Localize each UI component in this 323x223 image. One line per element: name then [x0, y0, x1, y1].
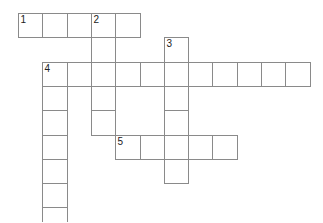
crossword-cell[interactable]	[115, 13, 141, 38]
crossword-cell[interactable]: 4	[42, 62, 68, 87]
crossword-cell[interactable]	[42, 110, 68, 136]
crossword-cell[interactable]: 5	[115, 135, 141, 160]
crossword-cell[interactable]	[91, 62, 116, 87]
crossword-cell[interactable]	[164, 62, 189, 87]
crossword-cell[interactable]	[212, 135, 238, 160]
crossword-cell[interactable]: 2	[91, 13, 116, 38]
clue-number: 4	[45, 64, 51, 74]
crossword-cell[interactable]	[91, 86, 116, 111]
crossword-cell[interactable]	[188, 62, 213, 87]
crossword-cell[interactable]	[164, 135, 189, 160]
crossword-cell[interactable]	[91, 110, 116, 136]
crossword-cell[interactable]	[42, 135, 68, 160]
crossword-cell[interactable]	[42, 207, 68, 223]
clue-number: 5	[118, 137, 124, 147]
crossword-cell[interactable]	[285, 62, 311, 87]
crossword-cell[interactable]: 1	[18, 13, 43, 38]
crossword-cell[interactable]	[91, 37, 116, 63]
crossword-cell[interactable]	[164, 110, 189, 136]
crossword-cell[interactable]	[164, 159, 189, 184]
crossword-cell[interactable]	[140, 62, 165, 87]
crossword-cell[interactable]: 3	[164, 37, 189, 63]
crossword-cell[interactable]	[237, 62, 262, 87]
crossword-cell[interactable]	[42, 183, 68, 208]
crossword-cell[interactable]	[212, 62, 238, 87]
crossword-cell[interactable]	[42, 86, 68, 111]
crossword-cell[interactable]	[164, 86, 189, 111]
crossword-cell[interactable]	[188, 135, 213, 160]
crossword-cell[interactable]	[67, 62, 92, 87]
crossword-cell[interactable]	[261, 62, 286, 87]
clue-number: 1	[21, 15, 27, 25]
clue-number: 3	[167, 39, 173, 49]
crossword-cell[interactable]	[42, 13, 68, 38]
crossword-cell[interactable]	[67, 13, 92, 38]
crossword-cell[interactable]	[140, 135, 165, 160]
clue-number: 2	[94, 15, 100, 25]
crossword-cell[interactable]	[42, 159, 68, 184]
crossword-cell[interactable]	[115, 62, 141, 87]
